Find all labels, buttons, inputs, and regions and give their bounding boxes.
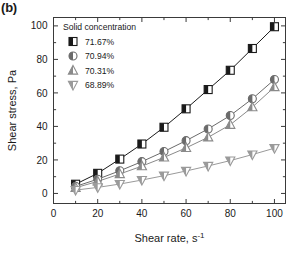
- x-tick-label: 60: [181, 208, 193, 219]
- series-line: [76, 87, 275, 188]
- series-line: [76, 148, 275, 190]
- y-tick-label: 80: [36, 54, 48, 65]
- y-tick-label: 40: [36, 121, 48, 132]
- x-tick-label: 100: [266, 208, 283, 219]
- x-axis-title: Shear rate, s-1: [134, 231, 205, 244]
- y-tick-label: 0: [42, 188, 48, 199]
- y-tick-label: 60: [36, 88, 48, 99]
- legend-item-1[interactable]: 70.94%: [69, 51, 115, 61]
- marker-square-fill: [270, 23, 274, 31]
- y-axis-title: Shear stress, Pa: [6, 69, 18, 151]
- marker-square-fill: [138, 140, 142, 148]
- y-tick-label: 100: [31, 20, 48, 31]
- marker-square-fill: [160, 123, 164, 131]
- figure-panel-b: (b) 020406080100020406080100Shear rate, …: [0, 0, 298, 253]
- legend-label: 70.94%: [85, 51, 115, 61]
- legend-label: 70.31%: [85, 66, 115, 76]
- x-tick-label: 0: [51, 208, 57, 219]
- legend-item-0[interactable]: 71.67%: [69, 37, 115, 47]
- legend-title: Solid concentration: [63, 22, 136, 32]
- marker-square-fill: [182, 105, 186, 113]
- legend-item-3[interactable]: 68.89%: [68, 80, 114, 90]
- marker-square-fill: [248, 45, 252, 53]
- x-tick-label: 80: [225, 208, 237, 219]
- series-0: [72, 23, 279, 189]
- x-axis-title-exponent: -1: [197, 231, 205, 240]
- marker-square-fill: [226, 66, 230, 74]
- legend-label: 71.67%: [85, 37, 115, 47]
- x-tick-label: 40: [136, 208, 148, 219]
- series-line: [76, 80, 275, 187]
- y-tick-label: 20: [36, 155, 48, 166]
- marker-square-fill: [69, 38, 73, 46]
- legend-item-2[interactable]: 70.31%: [68, 66, 114, 76]
- marker-square-fill: [116, 155, 120, 163]
- x-tick-label: 20: [92, 208, 104, 219]
- marker-square-fill: [204, 86, 208, 94]
- legend-label: 68.89%: [85, 80, 115, 90]
- chart-canvas: 020406080100020406080100Shear rate, s-1S…: [0, 0, 298, 253]
